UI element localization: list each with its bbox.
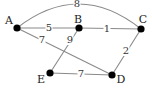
node-label-c: C bbox=[139, 13, 147, 26]
node-c bbox=[137, 25, 144, 32]
edge-b-e bbox=[50, 28, 79, 73]
edge-weight-c-d: 2 bbox=[123, 45, 129, 56]
edge-weight-e-d: 7 bbox=[78, 68, 84, 79]
weighted-graph: 8517927 ABCDE bbox=[0, 0, 152, 89]
edge-weight-a-c: 8 bbox=[74, 0, 80, 9]
node-label-b: B bbox=[74, 13, 82, 26]
edge-weight-b-e: 9 bbox=[67, 34, 73, 45]
node-label-d: D bbox=[117, 73, 126, 86]
node-label-a: A bbox=[4, 14, 14, 27]
edge-weight-a-d: 7 bbox=[39, 34, 45, 45]
node-a bbox=[13, 24, 20, 31]
edge-weight-a-b: 5 bbox=[46, 22, 52, 33]
edge-weight-b-c: 1 bbox=[104, 23, 110, 34]
node-e bbox=[46, 69, 53, 76]
node-label-e: E bbox=[37, 73, 45, 86]
edge-labels: 8517927 bbox=[39, 0, 130, 79]
node-d bbox=[108, 71, 115, 78]
